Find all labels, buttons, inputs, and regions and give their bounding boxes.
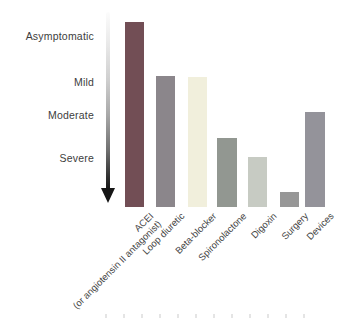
cropped-caption-fragment [105, 314, 317, 318]
severity-label-mild: Mild [74, 76, 94, 88]
severity-label-moderate: Moderate [48, 109, 94, 121]
bar-digoxin [248, 157, 267, 207]
severity-treatment-bar-chart: AsymptomaticMildModerateSevere ACEI(or a… [0, 0, 340, 320]
category-label-surgery: Surgery [280, 211, 311, 242]
severity-arrow-head-icon [101, 188, 115, 203]
bar-spironolactone [217, 138, 237, 207]
bar-acei [125, 22, 144, 207]
bar-surgery [280, 192, 299, 207]
severity-label-severe: Severe [60, 152, 94, 164]
severity-arrow-shaft [106, 12, 110, 190]
category-label-devices: Devices [305, 211, 336, 242]
bar-beta-blocker [188, 77, 207, 207]
bar-devices [305, 112, 325, 207]
category-label-acei: ACEI(or angiotensin II antagonist) [63, 211, 163, 311]
bar-loop-diuretic [156, 76, 175, 207]
severity-label-asymptomatic: Asymptomatic [26, 30, 94, 42]
category-label-digoxin: Digoxin [249, 211, 279, 241]
